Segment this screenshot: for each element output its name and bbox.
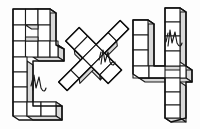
drawing-canvas: S / Z staircase block figure X cross of …	[0, 0, 200, 129]
left-block-figure	[13, 9, 64, 120]
right-figure-front-faces	[133, 8, 186, 118]
figures-illustration	[0, 0, 200, 129]
right-block-figure	[133, 8, 192, 122]
left-figure-notch-lines	[26, 25, 39, 41]
